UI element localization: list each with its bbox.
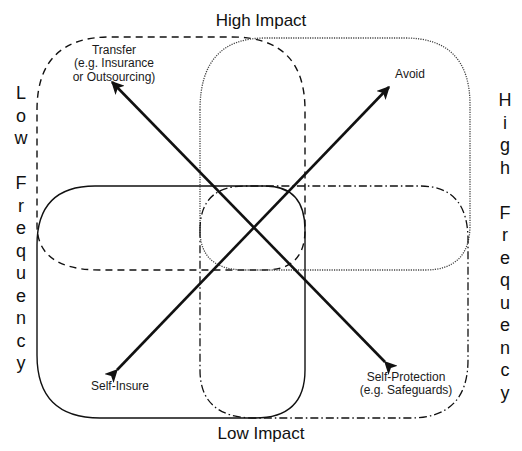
axis-high-frequency: H i g h F r e q u e n c y <box>495 89 515 404</box>
label-transfer-example-1: (e.g. Insurance <box>58 57 170 70</box>
label-transfer-title: Transfer <box>58 44 170 57</box>
arrow-transfer-self-protection <box>112 82 385 362</box>
label-transfer-example-2: or Outsourcing) <box>58 71 170 84</box>
axis-low-impact: Low Impact <box>0 424 522 443</box>
label-self-protection-example: (e.g. Safeguards) <box>350 384 462 397</box>
label-self-protection-title: Self-Protection <box>350 371 462 384</box>
label-avoid: Avoid <box>385 68 435 81</box>
label-transfer: Transfer (e.g. Insurance or Outsourcing) <box>58 44 170 84</box>
axis-low-frequency: L o w F r e q u e n c y <box>11 82 31 375</box>
label-self-insure: Self-Insure <box>80 380 160 393</box>
label-self-protection: Self-Protection (e.g. Safeguards) <box>350 371 462 398</box>
axis-high-impact: High Impact <box>0 11 522 30</box>
self-insure-region <box>37 186 305 418</box>
